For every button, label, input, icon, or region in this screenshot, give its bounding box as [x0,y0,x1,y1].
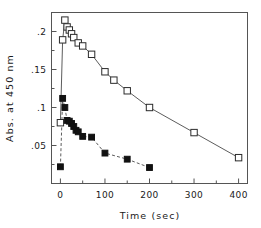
plot-frame [52,13,248,184]
data-point-open-squares [59,37,65,43]
x-tick-label-400: 400 [229,190,247,200]
y-tick-label-.05: .05 [31,141,47,151]
chart-figure: 0100200300400 .05.1.15.2 Time (sec) Abs.… [0,0,261,228]
data-point-open-squares [79,43,85,49]
data-point-closed-squares [60,95,66,101]
data-point-open-squares [191,129,197,135]
x-tick-label-0: 0 [57,190,63,200]
x-axis-title: Time (sec) [119,210,181,221]
y-tick-label-.15: .15 [31,65,47,75]
data-point-closed-squares [89,134,95,140]
x-tick-label-200: 200 [140,190,158,200]
y-axis-tick-labels: .05.1.15.2 [31,27,47,151]
series-markers [57,17,242,171]
x-axis-tick-labels: 0100200300400 [57,190,247,200]
x-tick-label-100: 100 [96,190,114,200]
data-point-open-squares [88,51,94,57]
x-tick-label-300: 300 [185,190,203,200]
data-point-closed-squares [80,133,86,139]
y-tick-label-.1: .1 [37,103,46,113]
data-point-closed-squares [102,150,108,156]
data-point-closed-squares [62,105,68,111]
data-point-closed-squares [124,156,130,162]
series-lines [60,20,238,167]
data-point-open-squares [235,154,241,160]
y-axis-title: Abs. at 450 nm [4,54,15,142]
absorbance-time-plot: 0100200300400 .05.1.15.2 Time (sec) Abs.… [0,0,261,228]
data-point-open-squares [62,17,68,23]
data-point-open-squares [124,88,130,94]
series-line-open-squares [60,20,238,158]
data-point-open-squares [57,120,63,126]
data-point-closed-squares [147,165,153,171]
data-point-open-squares [146,104,152,110]
data-point-closed-squares [58,164,64,170]
x-axis-major-ticks [60,179,238,184]
data-point-open-squares [102,69,108,75]
y-tick-label-.2: .2 [37,27,46,37]
data-point-open-squares [111,77,117,83]
